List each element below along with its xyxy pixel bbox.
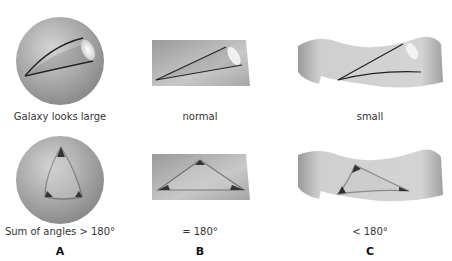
column-label-a: A [45, 245, 75, 258]
caption-galaxy-sphere: Galaxy looks large [0, 111, 120, 122]
column-label-c: C [355, 245, 385, 258]
saddle-galaxy-figure [293, 32, 445, 92]
caption-triangle-flat: = 180° [150, 226, 250, 237]
flat-galaxy-figure [150, 38, 250, 88]
caption-triangle-sphere: Sum of angles > 180° [0, 226, 120, 237]
saddle-triangle-figure [293, 143, 445, 208]
sphere-galaxy-figure [15, 16, 105, 106]
flat-triangle-figure [150, 152, 250, 202]
caption-galaxy-flat: normal [150, 111, 250, 122]
sphere-triangle-figure [15, 135, 105, 225]
caption-triangle-saddle: < 180° [320, 226, 420, 237]
column-label-b: B [185, 245, 215, 258]
caption-galaxy-saddle: small [320, 111, 420, 122]
